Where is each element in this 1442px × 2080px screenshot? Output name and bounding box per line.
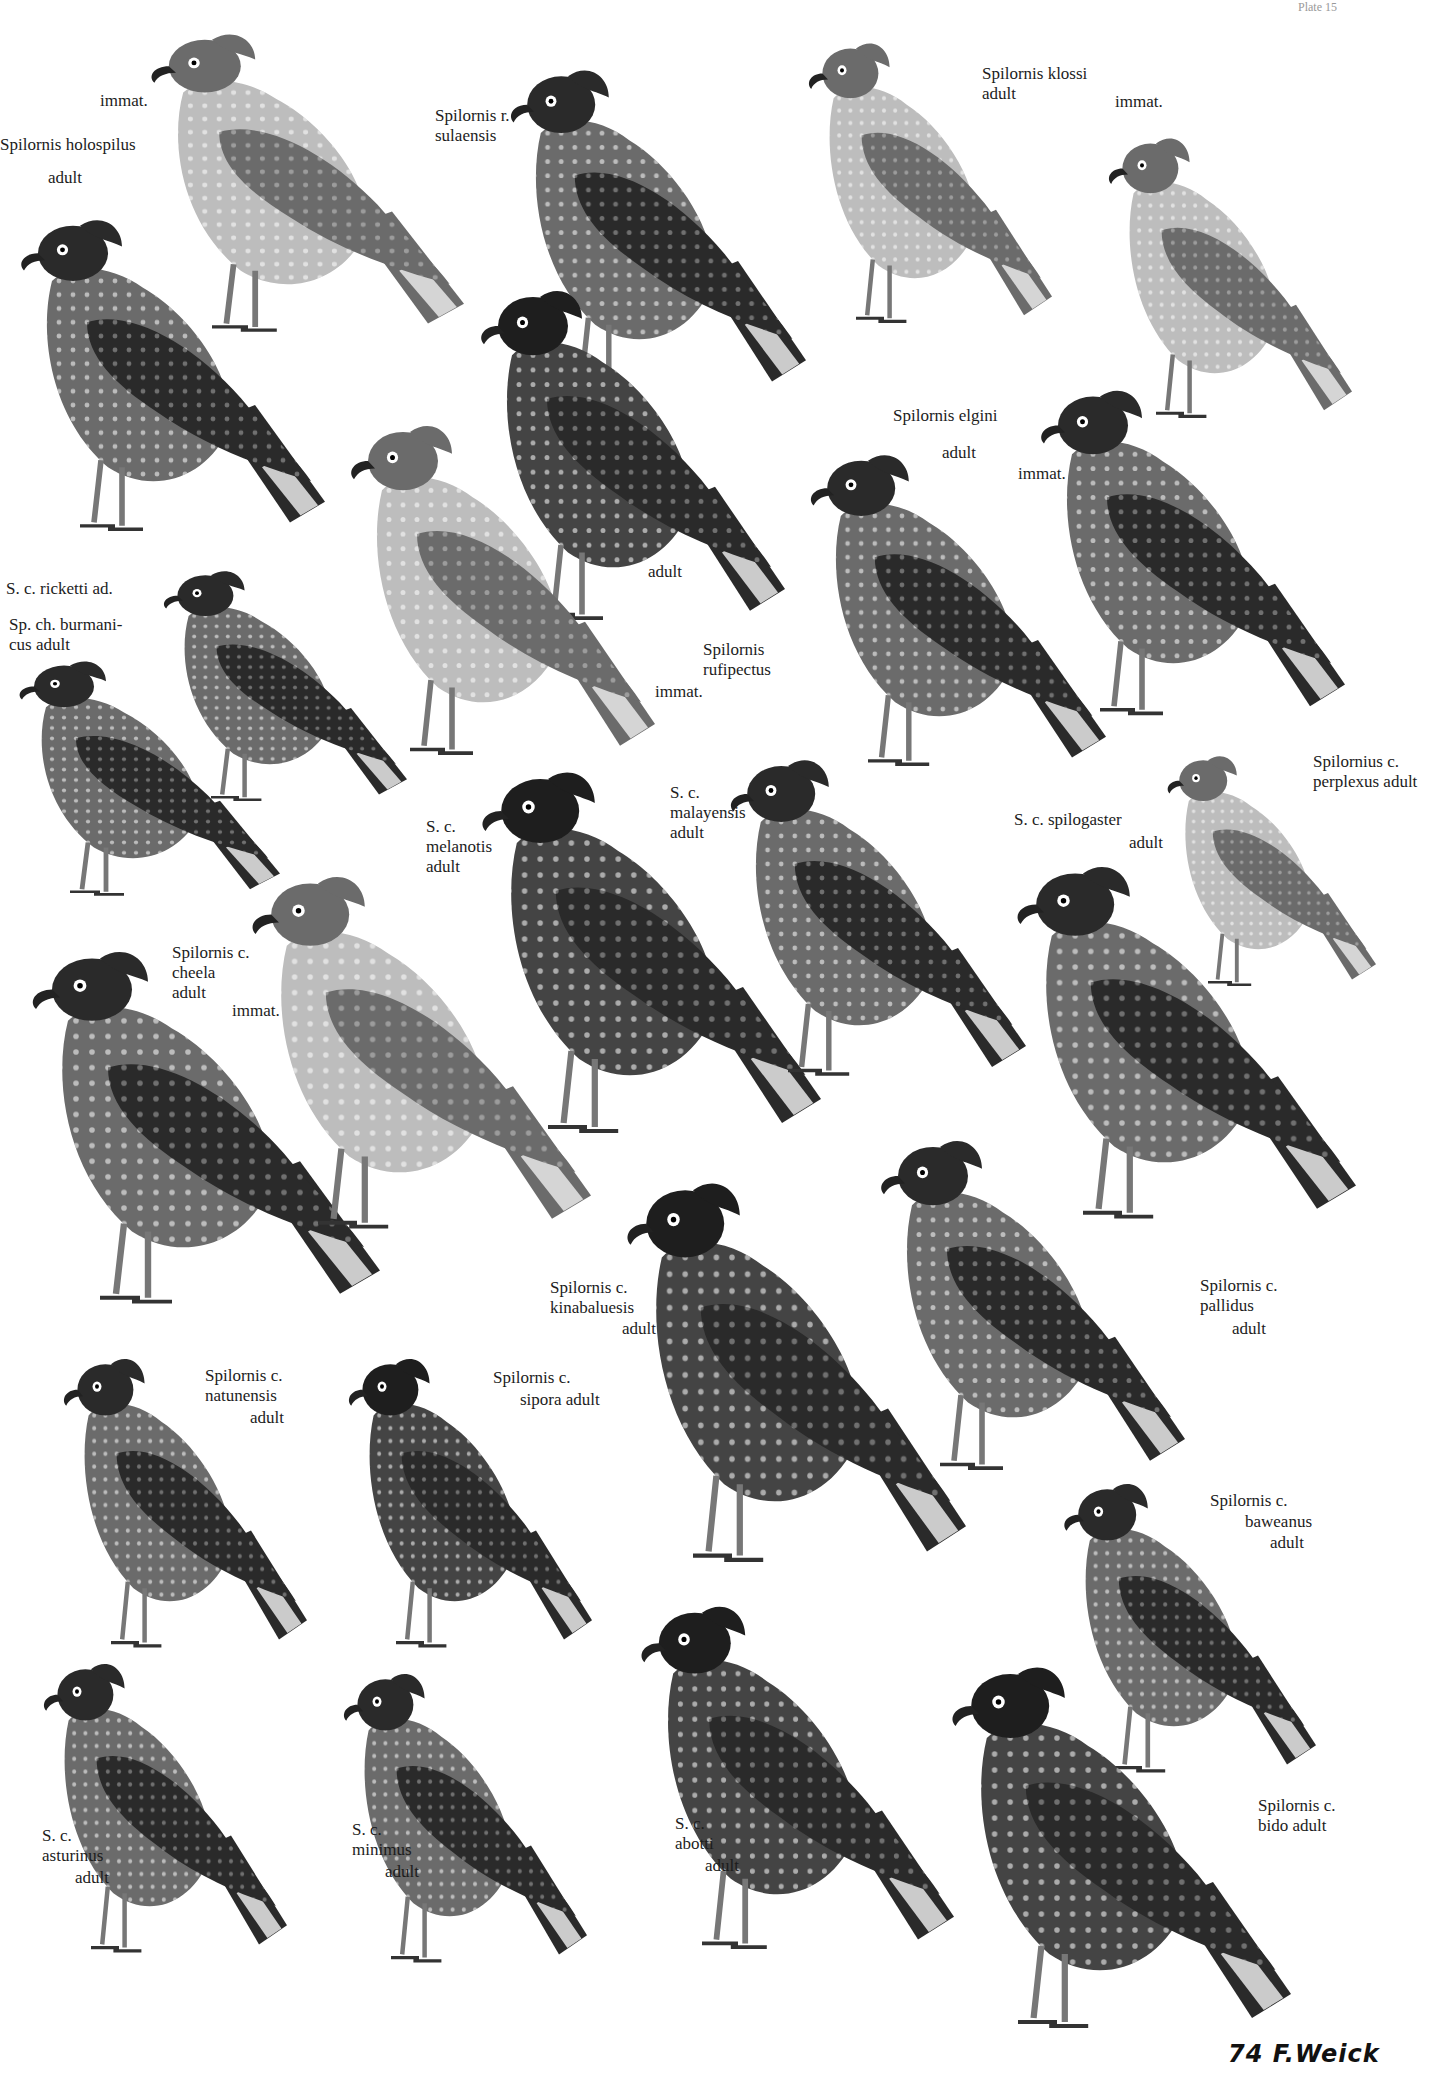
- caption-line: adult: [982, 84, 1087, 104]
- caption-elgini-immat: immat.: [1018, 464, 1066, 484]
- caption-rufipectus-adult: adult: [648, 562, 682, 582]
- caption-line: Spilornis c.: [172, 943, 249, 963]
- caption-spilogaster-adult: adult: [1129, 833, 1163, 853]
- caption-ricketti: S. c. ricketti ad.: [6, 579, 113, 599]
- caption-malayensis: S. c.malayensisadult: [670, 783, 746, 843]
- caption-line: asturinus: [42, 1846, 103, 1866]
- illustration-plate: Plate 15: [0, 0, 1442, 2080]
- caption-line: S. c.: [42, 1826, 103, 1846]
- caption-sipora-adult: sipora adult: [520, 1390, 600, 1410]
- caption-line: adult: [705, 1856, 739, 1876]
- caption-elgini: Spilornis elgini: [893, 406, 997, 426]
- caption-line: Spilornis c.: [493, 1368, 570, 1388]
- caption-line: natunensis: [205, 1386, 282, 1406]
- caption-spilogaster: S. c. spilogaster: [1014, 810, 1122, 830]
- caption-holospilus-adult: Spilornis holospilus: [0, 135, 136, 155]
- caption-line: S. c.: [352, 1820, 412, 1840]
- caption-line: Spilornis c.: [1258, 1796, 1335, 1816]
- caption-sulaensis: Spilornis r.sulaensis: [435, 106, 510, 146]
- bird-figure-cheela-immat: [240, 860, 630, 1250]
- caption-klossi-immat: immat.: [1115, 92, 1163, 112]
- caption-rufipectus: Spilornisrufipectus: [703, 640, 771, 680]
- caption-line: cus adult: [9, 635, 122, 655]
- caption-kinabaluesis-adult: adult: [622, 1319, 656, 1339]
- bird-figure-natunensis-adult: [55, 1345, 335, 1665]
- caption-line: rufipectus: [703, 660, 771, 680]
- bird-figure-holospilus-adult: [10, 205, 360, 550]
- caption-line: adult: [1270, 1533, 1304, 1553]
- caption-line: Spilornis r.: [435, 106, 510, 126]
- caption-natunensis-adult: adult: [250, 1408, 284, 1428]
- caption-line: Sp. ch. burmani-: [9, 615, 122, 635]
- caption-line: immat.: [100, 91, 148, 111]
- caption-line: Spilornis c.: [205, 1366, 282, 1386]
- caption-abotti-adult: adult: [705, 1856, 739, 1876]
- caption-asturinus-adult: adult: [75, 1868, 109, 1888]
- caption-line: S. c. spilogaster: [1014, 810, 1122, 830]
- caption-line: adult: [670, 823, 746, 843]
- caption-line: kinabaluesis: [550, 1298, 634, 1318]
- caption-line: immat.: [655, 682, 703, 702]
- caption-baweanus-adult: adult: [1270, 1533, 1304, 1553]
- bird-figure-asturinus-adult: [35, 1650, 315, 1970]
- caption-line: immat.: [1018, 464, 1066, 484]
- caption-minimus-adult: adult: [385, 1862, 419, 1882]
- caption-bido: Spilornis c.bido adult: [1258, 1796, 1335, 1836]
- caption-line: Spilornius c.: [1313, 752, 1417, 772]
- caption-line: Spilornis klossi: [982, 64, 1087, 84]
- caption-rufipectus-immat: immat.: [655, 682, 703, 702]
- caption-line: immat.: [232, 1001, 280, 1021]
- caption-natunensis: Spilornis c.natunensis: [205, 1366, 282, 1406]
- caption-cheela-immat: immat.: [232, 1001, 280, 1021]
- caption-asturinus: S. c.asturinus: [42, 1826, 103, 1866]
- caption-line: adult: [48, 168, 82, 188]
- caption-line: adult: [942, 443, 976, 463]
- caption-line: adult: [385, 1862, 419, 1882]
- caption-perplexus: Spilornius c.perplexus adult: [1313, 752, 1417, 792]
- caption-line: S. c. ricketti ad.: [6, 579, 113, 599]
- caption-holospilus-adult2: adult: [48, 168, 82, 188]
- caption-line: malayensis: [670, 803, 746, 823]
- bird-figure-abotti-adult: [630, 1590, 990, 1970]
- caption-pallidus-adult: adult: [1232, 1319, 1266, 1339]
- caption-line: abotti: [675, 1834, 714, 1854]
- caption-line: S. c.: [426, 817, 492, 837]
- caption-baweanus2: baweanus: [1245, 1512, 1312, 1532]
- caption-burmanicus: Sp. ch. burmani-cus adult: [9, 615, 122, 655]
- caption-abotti: S. c.abotti: [675, 1814, 714, 1854]
- caption-line: adult: [172, 983, 249, 1003]
- caption-line: pallidus: [1200, 1296, 1277, 1316]
- caption-baweanus: Spilornis c.: [1210, 1491, 1287, 1511]
- plate-number: Plate 15: [1298, 0, 1337, 15]
- caption-line: S. c.: [675, 1814, 714, 1834]
- artist-signature: 74 F.Weick: [1228, 2040, 1380, 2068]
- caption-line: perplexus adult: [1313, 772, 1417, 792]
- caption-line: adult: [648, 562, 682, 582]
- caption-line: bido adult: [1258, 1816, 1335, 1836]
- caption-line: adult: [250, 1408, 284, 1428]
- caption-line: adult: [75, 1868, 109, 1888]
- caption-line: Spilornis: [703, 640, 771, 660]
- caption-sipora: Spilornis c.: [493, 1368, 570, 1388]
- caption-klossi: Spilornis klossiadult: [982, 64, 1087, 104]
- caption-line: Spilornis c.: [1210, 1491, 1287, 1511]
- bird-figure-bido-adult: [940, 1650, 1330, 2050]
- caption-elgini-adult: adult: [942, 443, 976, 463]
- caption-line: sipora adult: [520, 1390, 600, 1410]
- caption-line: cheela: [172, 963, 249, 983]
- caption-line: Spilornis elgini: [893, 406, 997, 426]
- caption-line: minimus: [352, 1840, 412, 1860]
- caption-line: adult: [426, 857, 492, 877]
- caption-line: Spilornis c.: [1200, 1276, 1277, 1296]
- caption-line: sulaensis: [435, 126, 510, 146]
- bird-figure-elgini-immat: [1030, 375, 1380, 735]
- caption-line: adult: [1232, 1319, 1266, 1339]
- caption-pallidus: Spilornis c.pallidus: [1200, 1276, 1277, 1316]
- caption-line: Spilornis holospilus: [0, 135, 136, 155]
- caption-line: immat.: [1115, 92, 1163, 112]
- caption-minimus: S. c.minimus: [352, 1820, 412, 1860]
- caption-cheela: Spilornis c.cheelaadult: [172, 943, 249, 1003]
- caption-line: Spilornis c.: [550, 1278, 634, 1298]
- caption-melanotis: S. c.melanotisadult: [426, 817, 492, 877]
- bird-figure-pallidus-adult: [870, 1125, 1220, 1490]
